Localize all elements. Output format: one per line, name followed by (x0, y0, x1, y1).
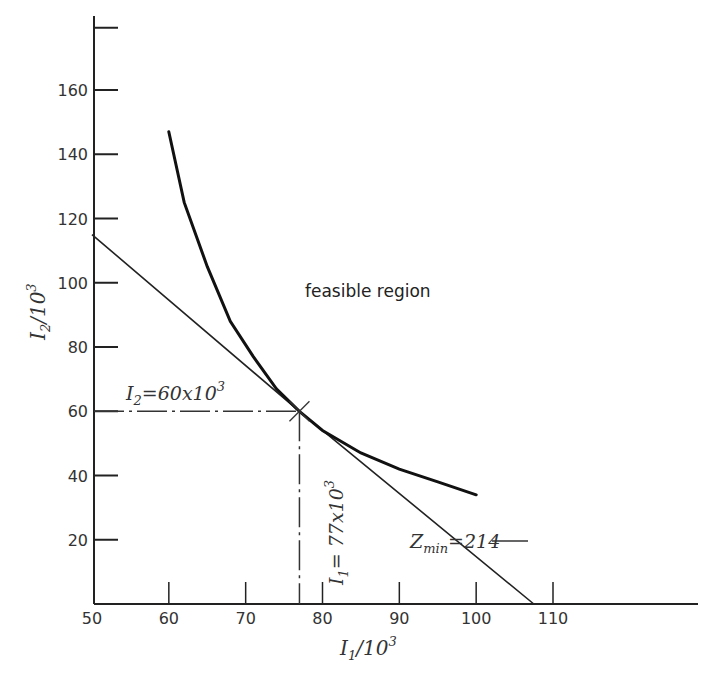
x-tick-label: 80 (312, 609, 332, 628)
x-tick-label: 70 (235, 609, 255, 628)
y-tick-label: 100 (57, 274, 88, 293)
y-ticks: 20406080100120140160 (57, 28, 118, 550)
x-tick-label: 50 (82, 609, 102, 628)
y-tick-label: 160 (57, 81, 88, 100)
chart-canvas: 20406080100120140160 5060708090100110 fe… (0, 0, 711, 674)
y-tick-label: 60 (68, 402, 88, 421)
y-tick-label: 80 (68, 338, 88, 357)
zmin-annotation: Zmin=214 (409, 530, 500, 556)
y-axis-label: I2/103 (24, 283, 53, 341)
x-tick-label: 60 (159, 609, 179, 628)
feasible-region-label: feasible region (305, 281, 431, 301)
i2-annotation: I2=60x103 (125, 379, 225, 408)
axes (94, 16, 698, 604)
x-tick-label: 100 (461, 609, 492, 628)
i1-annotation: I1= 77x103 (322, 480, 351, 586)
y-tick-label: 40 (68, 467, 88, 486)
constraint-curve (169, 132, 476, 495)
x-tick-label: 110 (538, 609, 569, 628)
y-tick-label: 140 (57, 145, 88, 164)
y-tick-label: 120 (57, 210, 88, 229)
x-axis-label: I1/103 (339, 634, 397, 663)
x-tick-label: 90 (389, 609, 409, 628)
y-tick-label: 20 (68, 531, 88, 550)
